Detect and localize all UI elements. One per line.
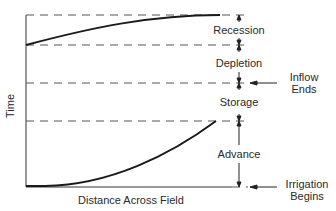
phase-label-depletion: Depletion (209, 57, 269, 69)
arrow-left-icon (250, 185, 257, 189)
event-inflow-ends-line2: Ends (280, 83, 328, 95)
arrow-left-icon (250, 81, 257, 85)
event-irrigation-begins: Irrigation Begins (280, 178, 334, 202)
event-irrigation-begins-line2: Begins (280, 190, 334, 202)
phase-label-storage: Storage (209, 96, 269, 108)
event-inflow-ends-line1: Inflow (280, 71, 328, 83)
advance-curve (26, 121, 216, 186)
phase-label-recession: Recession (209, 24, 269, 36)
event-inflow-ends: Inflow Ends (280, 71, 328, 95)
phase-label-advance: Advance (209, 148, 269, 160)
y-axis-label: Time (4, 91, 16, 121)
arrow-up-icon (237, 15, 241, 20)
recession-curve (26, 15, 220, 45)
event-irrigation-begins-line1: Irrigation (280, 178, 334, 190)
x-axis-label: Distance Across Field (56, 194, 206, 206)
